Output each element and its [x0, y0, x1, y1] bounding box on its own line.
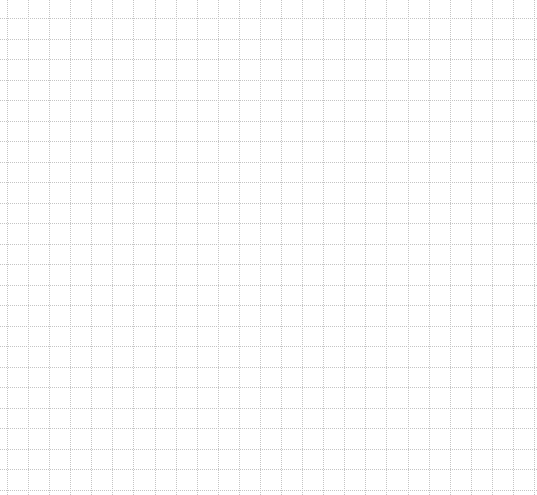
- grid-vertical-line: [239, 0, 240, 495]
- grid-vertical-line: [260, 0, 261, 495]
- grid-vertical-line: [323, 0, 324, 495]
- grid-horizontal-line: [0, 244, 537, 245]
- grid-horizontal-line: [0, 326, 537, 327]
- grid-horizontal-line: [0, 490, 537, 491]
- grid-horizontal-line: [0, 59, 537, 60]
- grid-horizontal-line: [0, 80, 537, 81]
- grid-vertical-line: [492, 0, 493, 495]
- grid-horizontal-line: [0, 346, 537, 347]
- grid-vertical-line: [365, 0, 366, 495]
- grid-horizontal-line: [0, 305, 537, 306]
- grid-vertical-line: [28, 0, 29, 495]
- grid-horizontal-line: [0, 264, 537, 265]
- grid-vertical-line: [112, 0, 113, 495]
- grid-vertical-line: [408, 0, 409, 495]
- grid-horizontal-line: [0, 182, 537, 183]
- grid-vertical-line: [197, 0, 198, 495]
- grid-vertical-line: [7, 0, 8, 495]
- grid-vertical-line: [534, 0, 535, 495]
- grid-vertical-line: [281, 0, 282, 495]
- grid-vertical-line: [471, 0, 472, 495]
- grid-horizontal-line: [0, 141, 537, 142]
- grid-horizontal-line: [0, 100, 537, 101]
- grid-horizontal-line: [0, 408, 537, 409]
- grid-vertical-line: [133, 0, 134, 495]
- grid-horizontal-line: [0, 162, 537, 163]
- grid-horizontal-line: [0, 387, 537, 388]
- grid-horizontal-line: [0, 449, 537, 450]
- grid-horizontal-line: [0, 18, 537, 19]
- grid-vertical-line: [429, 0, 430, 495]
- grid-vertical-line: [70, 0, 71, 495]
- grid-vertical-line: [155, 0, 156, 495]
- grid-vertical-line: [91, 0, 92, 495]
- grid-horizontal-line: [0, 203, 537, 204]
- grid-vertical-line: [513, 0, 514, 495]
- grid-horizontal-line: [0, 223, 537, 224]
- grid-horizontal-line: [0, 428, 537, 429]
- grid-vertical-line: [49, 0, 50, 495]
- empty-grid-canvas: [0, 0, 537, 495]
- grid-vertical-line: [176, 0, 177, 495]
- grid-vertical-line: [386, 0, 387, 495]
- grid-horizontal-line: [0, 469, 537, 470]
- grid-horizontal-line: [0, 121, 537, 122]
- grid-horizontal-line: [0, 367, 537, 368]
- grid-vertical-line: [218, 0, 219, 495]
- grid-vertical-line: [450, 0, 451, 495]
- grid-horizontal-line: [0, 39, 537, 40]
- grid-horizontal-line: [0, 285, 537, 286]
- grid-vertical-line: [344, 0, 345, 495]
- grid-vertical-line: [302, 0, 303, 495]
